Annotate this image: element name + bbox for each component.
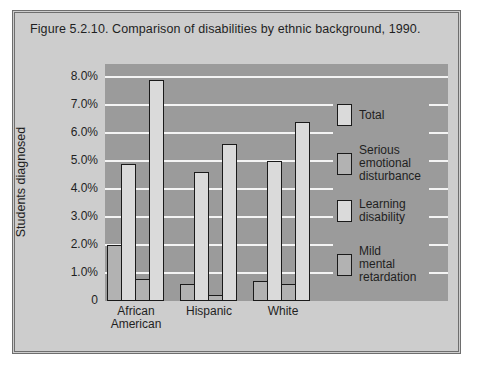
legend-item: Mild mental retardation <box>337 245 416 284</box>
y-tick-label: 6.0% <box>38 125 98 139</box>
y-tick-label: 8.0% <box>38 69 98 83</box>
legend-label: Mild mental retardation <box>359 245 416 284</box>
figure-title: Figure 5.2.10. Comparison of disabilitie… <box>30 22 460 36</box>
bar <box>194 172 209 301</box>
legend-label: Learning disability <box>359 198 406 224</box>
y-tick-label: 0 <box>38 293 98 307</box>
legend-item: Serious emotional disturbance <box>337 144 421 183</box>
legend-label: Total <box>359 109 384 122</box>
figure-page: Figure 5.2.10. Comparison of disabilitie… <box>0 0 481 374</box>
legend-item: Total <box>337 104 384 126</box>
bar-group <box>253 64 309 301</box>
legend-swatch <box>337 254 352 276</box>
legend-swatch <box>337 153 352 175</box>
legend-swatch <box>337 200 352 222</box>
y-tick-label: 4.0% <box>38 181 98 195</box>
bar <box>281 284 296 301</box>
bar <box>107 245 122 301</box>
legend-item: Learning disability <box>337 198 406 224</box>
bar <box>121 164 136 301</box>
y-tick-label: 5.0% <box>38 153 98 167</box>
y-tick-label: 3.0% <box>38 209 98 223</box>
bar <box>253 281 268 301</box>
bar <box>180 284 195 301</box>
bar <box>149 80 164 301</box>
bar <box>267 161 282 301</box>
bar <box>208 295 223 301</box>
bar-group <box>107 64 163 301</box>
bar <box>222 144 237 301</box>
bar <box>135 279 150 301</box>
y-tick-label: 1.0% <box>38 265 98 279</box>
bar-group <box>180 64 236 301</box>
bar <box>295 122 310 301</box>
y-tick-label: 2.0% <box>38 237 98 251</box>
x-category-label: White <box>238 305 328 318</box>
y-tick-label: 7.0% <box>38 97 98 111</box>
legend-swatch <box>337 104 352 126</box>
y-axis-title: Students diagnosed <box>14 117 28 247</box>
legend-label: Serious emotional disturbance <box>359 144 421 183</box>
